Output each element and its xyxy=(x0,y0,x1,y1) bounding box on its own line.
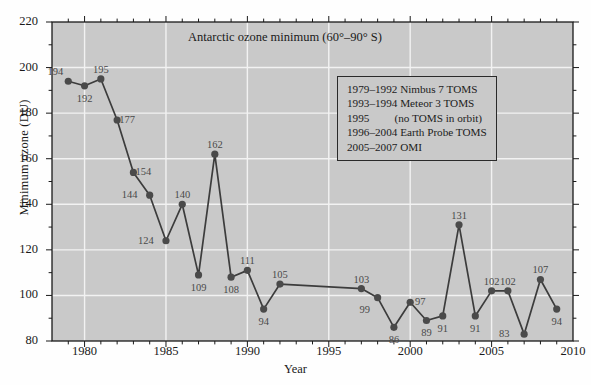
data-point-value-label: 83 xyxy=(496,328,512,339)
data-point-value-label: 102 xyxy=(500,276,516,287)
data-point-value-label: 144 xyxy=(122,189,138,200)
data-point-value-label: 91 xyxy=(467,323,483,334)
data-point-value-label: 140 xyxy=(174,189,190,200)
data-point-value-label: 99 xyxy=(357,304,373,315)
data-point-value-label: 108 xyxy=(223,284,239,295)
data-point-value-label: 131 xyxy=(451,210,467,221)
data-point-value-label: 103 xyxy=(353,274,369,285)
data-point-value-label: 109 xyxy=(191,282,207,293)
data-point-value-label: 97 xyxy=(412,296,428,307)
legend-entry: 1996–2004 Earth Probe TOMS xyxy=(347,125,487,139)
legend-entry: 2005–2007 OMI xyxy=(347,140,487,154)
data-point-value-label: 111 xyxy=(239,255,255,266)
data-point-value-label: 195 xyxy=(93,64,109,75)
data-point-value-label: 91 xyxy=(435,323,451,334)
data-point-value-label: 192 xyxy=(77,93,93,104)
data-point-value-label: 154 xyxy=(135,166,151,177)
legend-entry: 1979–1992 Nimbus 7 TOMS xyxy=(347,82,487,96)
data-point-value-label: 105 xyxy=(272,269,288,280)
legend-entry: 1993–1994 Meteor 3 TOMS xyxy=(347,96,487,110)
instrument-legend-box: 1979–1992 Nimbus 7 TOMS1993–1994 Meteor … xyxy=(337,76,497,161)
ozone-chart-figure: Antarctic ozone minimum (60°–90° S) Mini… xyxy=(0,0,591,385)
data-point-value-label: 107 xyxy=(532,264,548,275)
data-point-value-label: 102 xyxy=(484,276,500,287)
data-point-labels: 1941921951771541441241401091621081119410… xyxy=(0,0,591,385)
data-point-value-label: 94 xyxy=(549,316,565,327)
data-point-value-label: 94 xyxy=(256,316,272,327)
data-point-value-label: 177 xyxy=(119,114,135,125)
data-point-value-label: 124 xyxy=(138,235,154,246)
data-point-value-label: 86 xyxy=(386,334,402,345)
data-point-value-label: 162 xyxy=(207,139,223,150)
data-point-value-label: 194 xyxy=(47,66,63,77)
legend-entry: 1995 (no TOMS in orbit) xyxy=(347,111,487,125)
data-point-value-label: 89 xyxy=(418,327,434,338)
